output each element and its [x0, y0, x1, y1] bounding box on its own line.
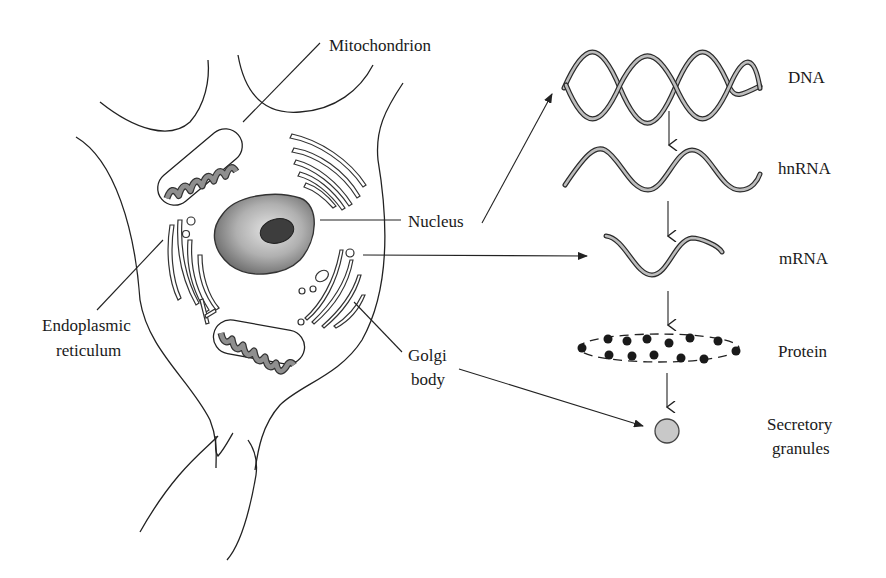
label-granules: granules	[772, 439, 830, 458]
pointer-arrows	[363, 94, 643, 426]
label-hnrna: hnRNA	[778, 159, 832, 178]
label-protein: Protein	[778, 342, 828, 361]
label-nucleus: Nucleus	[408, 212, 464, 231]
label-body: body	[411, 370, 446, 389]
protein-chain-icon	[578, 334, 741, 364]
label-reticulum: reticulum	[56, 341, 121, 360]
label-dna: DNA	[788, 68, 826, 87]
nucleus	[214, 194, 314, 274]
label-secretory: Secretory	[767, 415, 833, 434]
label-mrna: mRNA	[779, 249, 829, 268]
mitochondrion-top	[151, 122, 249, 212]
label-golgi: Golgi	[408, 346, 447, 365]
label-endoplasmic: Endoplasmic	[42, 316, 131, 335]
secretory-granule-icon	[655, 419, 679, 443]
neighbor-cell-outlines	[100, 55, 373, 131]
mrna-strand-icon	[606, 236, 722, 275]
diagram-canvas: Mitochondrion Nucleus Endoplasmic reticu…	[0, 0, 886, 578]
mitochondrion-bottom	[211, 317, 308, 371]
label-mitochondrion: Mitochondrion	[329, 36, 431, 55]
hnrna-strand-icon	[565, 149, 760, 190]
dna-helix-icon	[564, 52, 760, 123]
endoplasmic-reticulum-left	[168, 217, 219, 324]
golgi-body	[298, 249, 365, 328]
